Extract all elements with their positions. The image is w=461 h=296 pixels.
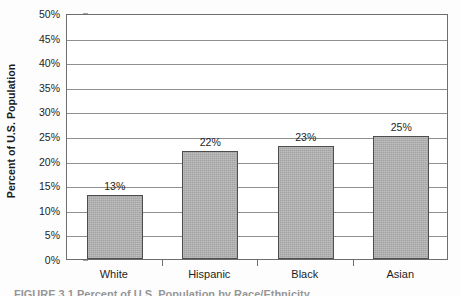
y-axis-tick-label: 25% — [39, 131, 60, 143]
y-axis-tick-label: 10% — [39, 205, 60, 217]
y-axis-tick-label: 20% — [39, 156, 60, 168]
bar-group: 22% — [163, 15, 259, 259]
y-axis-tick-label: 50% — [39, 8, 60, 20]
x-axis-category-label: Black — [291, 268, 318, 280]
plot-area: 13%22%23%25% — [66, 14, 448, 260]
x-axis-category-label: White — [100, 268, 128, 280]
bar-value-label: 23% — [295, 131, 316, 143]
bar — [278, 146, 334, 259]
figure-caption: FIGURE 3.1 Percent of U.S. Population by… — [14, 288, 444, 296]
x-axis-tick-labels: WhiteHispanicBlackAsian — [66, 268, 448, 286]
bars-layer: 13%22%23%25% — [67, 15, 447, 259]
x-axis-tick-mark — [162, 260, 163, 266]
x-axis-tick-marks — [66, 260, 448, 268]
y-axis-tick-labels: 0%5%10%15%20%25%30%35%40%45%50% — [22, 14, 64, 260]
y-axis-tick-label: 30% — [39, 106, 60, 118]
y-axis-tick-label: 0% — [45, 254, 60, 266]
bar-group: 23% — [258, 15, 354, 259]
bar — [87, 195, 143, 259]
y-axis-title-text: Percent of U.S. Population — [5, 64, 17, 198]
bar — [182, 151, 238, 259]
y-axis-tick-label: 40% — [39, 57, 60, 69]
x-axis-category-label: Asian — [386, 268, 414, 280]
bar-value-label: 22% — [200, 136, 221, 148]
y-axis-tick-label: 45% — [39, 33, 60, 45]
x-axis-tick-mark — [257, 260, 258, 266]
x-axis-category-label: Hispanic — [188, 268, 230, 280]
y-axis-tick-label: 5% — [45, 229, 60, 241]
bar-group: 25% — [354, 15, 450, 259]
bar-value-label: 13% — [104, 180, 125, 192]
y-axis-tick-label: 15% — [39, 180, 60, 192]
bar-chart-figure: Percent of U.S. Population 0%5%10%15%20%… — [0, 0, 461, 296]
x-axis-tick-mark — [353, 260, 354, 266]
bar-group: 13% — [67, 15, 163, 259]
bar-value-label: 25% — [391, 121, 412, 133]
y-axis-title: Percent of U.S. Population — [0, 0, 22, 262]
bar — [373, 136, 429, 259]
y-axis-tick-label: 35% — [39, 82, 60, 94]
